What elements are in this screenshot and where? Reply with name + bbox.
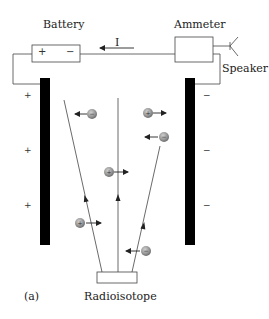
svg-text:+: + — [77, 219, 82, 226]
radiation-beams — [64, 98, 160, 272]
ion-2-positive: + — [143, 108, 166, 118]
ion-4-positive: + — [104, 167, 128, 177]
svg-text:−: − — [143, 247, 148, 254]
ion-6-negative: − — [126, 246, 151, 256]
svg-text:+: + — [145, 109, 150, 116]
left-plate-charge-sign: + — [24, 145, 32, 155]
radioisotope-label: Radioisotope — [84, 290, 157, 303]
battery-positive-sign: + — [38, 46, 46, 57]
right-plate-charge-sign: − — [203, 200, 211, 210]
current-label: I — [115, 36, 119, 49]
battery-negative-sign: − — [66, 46, 74, 57]
left-plate-charge-sign: + — [24, 200, 32, 210]
speaker-icon — [213, 37, 238, 56]
right-plate-charge-sign: − — [203, 145, 211, 155]
speaker-label: Speaker — [222, 62, 268, 75]
left-plate-charge-sign: + — [24, 90, 32, 100]
battery-label: Battery — [43, 18, 84, 31]
ammeter — [175, 37, 213, 62]
svg-text:−: − — [161, 133, 166, 140]
ion-1-negative: − — [75, 109, 97, 119]
svg-text:−: − — [89, 110, 94, 117]
ion-3-negative: − — [145, 132, 169, 142]
right-plate-charge-sign: − — [203, 90, 211, 100]
radioisotope-source — [97, 272, 137, 283]
beam-direction-arrows — [82, 194, 146, 229]
right-plate-negative — [185, 78, 195, 245]
ion-5-positive: + — [75, 218, 101, 228]
svg-text:+: + — [106, 168, 111, 175]
ammeter-label: Ammeter — [174, 18, 226, 31]
left-plate-positive — [40, 78, 50, 245]
figure-caption: (a) — [24, 290, 39, 303]
